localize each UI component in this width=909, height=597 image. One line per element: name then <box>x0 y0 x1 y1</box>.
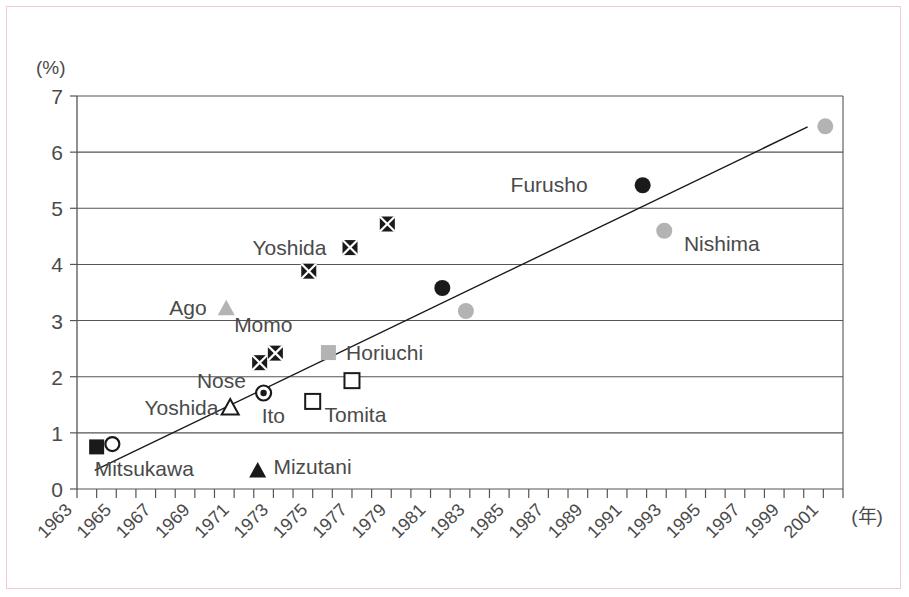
point-label-momo-4: Momo <box>234 313 292 336</box>
data-point-filled-circle <box>434 280 450 296</box>
marker-open-circle <box>105 437 119 451</box>
point-label-furusho-0: Furusho <box>511 173 588 196</box>
point-label-yoshida-8: Yoshida <box>144 396 218 419</box>
data-point-open-triangle-yoshida <box>222 399 239 415</box>
data-point-filled-square-mitsukawa <box>89 439 104 454</box>
x-axis-unit-label: (年) <box>851 506 883 527</box>
marker-open-square <box>305 394 320 409</box>
point-label-mizutani-11: Mizutani <box>273 455 351 478</box>
x-tick-label-1983: 1983 <box>426 500 468 542</box>
point-label-ago-3: Ago <box>169 296 206 319</box>
marker-filled-circle <box>635 177 651 193</box>
marker-gray-circle <box>656 223 672 239</box>
y-tick-label-0: 0 <box>51 478 63 501</box>
x-tick-label-1993: 1993 <box>623 500 665 542</box>
chart-page: 0123456719631965196719691971197319751977… <box>0 0 909 597</box>
marker-filled-circle <box>434 280 450 296</box>
x-tick-label-1995: 1995 <box>662 500 704 542</box>
x-tick-label-1963: 1963 <box>33 500 75 542</box>
x-tick-label-1981: 1981 <box>387 500 429 542</box>
point-label-tomita-9: Tomita <box>324 403 386 426</box>
x-tick-label-1965: 1965 <box>73 500 115 542</box>
scatter-chart: 0123456719631965196719691971197319751977… <box>0 0 909 597</box>
y-tick-label-6: 6 <box>51 141 63 164</box>
x-tick-label-1975: 1975 <box>269 500 311 542</box>
y-tick-label-7: 7 <box>51 85 63 108</box>
data-point-circle-dot-nose <box>256 385 271 400</box>
data-point-crossed-square-yoshida <box>343 240 358 255</box>
x-tick-label-1977: 1977 <box>308 500 350 542</box>
marker-gray-circle <box>458 303 474 319</box>
marker-gray-circle <box>817 118 833 134</box>
data-point-gray-square-horiuchi <box>321 345 336 360</box>
data-point-open-circle <box>105 437 119 451</box>
y-tick-label-5: 5 <box>51 197 63 220</box>
x-tick-label-2001: 2001 <box>780 500 822 542</box>
marker-filled-triangle <box>249 462 266 478</box>
x-tick-label-1985: 1985 <box>465 500 507 542</box>
point-label-yoshida-2: Yoshida <box>252 236 326 259</box>
y-axis-unit-label: (%) <box>36 57 66 78</box>
x-tick-label-1967: 1967 <box>112 500 154 542</box>
x-tick-label-1991: 1991 <box>583 500 625 542</box>
x-tick-label-1999: 1999 <box>740 500 782 542</box>
data-point-open-square-ito <box>305 394 320 409</box>
data-point-gray-triangle-ago <box>218 300 235 316</box>
data-point-filled-circle-furusho <box>635 177 651 193</box>
marker-gray-triangle <box>218 300 235 316</box>
marker-gray-square <box>321 345 336 360</box>
point-label-nose-6: Nose <box>197 369 246 392</box>
point-label-horiuchi-5: Horiuchi <box>346 341 423 364</box>
point-label-mitsukawa-10: Mitsukawa <box>95 457 195 480</box>
point-label-nishima-1: Nishima <box>684 232 760 255</box>
x-tick-label-1987: 1987 <box>505 500 547 542</box>
x-tick-label-1971: 1971 <box>190 500 232 542</box>
data-point-crossed-square <box>268 346 283 361</box>
x-tick-label-1973: 1973 <box>230 500 272 542</box>
x-tick-label-1969: 1969 <box>151 500 193 542</box>
x-tick-label-1979: 1979 <box>348 500 390 542</box>
x-tick-label-1997: 1997 <box>701 500 743 542</box>
data-point-crossed-square <box>301 264 316 279</box>
y-tick-label-4: 4 <box>51 253 63 276</box>
point-label-ito-7: Ito <box>262 404 285 427</box>
data-point-crossed-square <box>380 217 395 232</box>
marker-circle-dot-center <box>260 390 266 396</box>
y-tick-label-3: 3 <box>51 310 63 333</box>
y-tick-label-2: 2 <box>51 366 63 389</box>
marker-open-triangle <box>222 399 239 415</box>
data-point-gray-circle-nishima <box>656 223 672 239</box>
data-point-gray-circle <box>817 118 833 134</box>
data-point-filled-triangle-mizutani <box>249 462 266 478</box>
marker-open-square <box>344 373 359 388</box>
marker-filled-square <box>89 439 104 454</box>
data-point-gray-circle <box>458 303 474 319</box>
x-tick-label-1989: 1989 <box>544 500 586 542</box>
data-point-open-square-tomita <box>344 373 359 388</box>
y-tick-label-1: 1 <box>51 422 63 445</box>
data-point-crossed-square-momo <box>252 355 267 370</box>
